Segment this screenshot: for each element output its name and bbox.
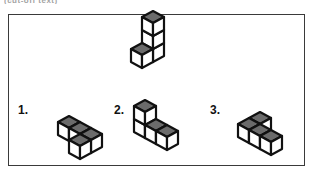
cube (131, 43, 153, 68)
option-2-drawing (130, 96, 182, 154)
option-label-2: 2. (114, 104, 124, 116)
option-1-drawing (54, 112, 106, 163)
cube (156, 125, 178, 150)
reference-solid (127, 7, 168, 72)
option-2[interactable] (130, 96, 182, 154)
option-label-1: 1. (18, 104, 28, 116)
option-3[interactable] (234, 108, 286, 159)
cube (69, 134, 91, 159)
cube (142, 11, 164, 36)
option-1[interactable] (54, 112, 106, 163)
cube (260, 130, 282, 155)
reference-solid-drawing (127, 7, 168, 72)
option-3-drawing (234, 108, 286, 159)
figure-panel: 1.2.3. (8, 14, 305, 166)
clipped-caption-text: (cut-off text) (4, 0, 124, 4)
option-label-3: 3. (210, 104, 220, 116)
